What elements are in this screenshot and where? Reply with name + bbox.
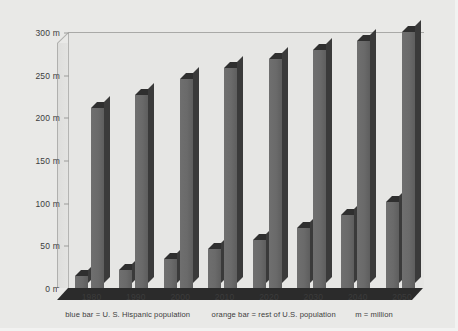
y-tick-mark-100 (64, 203, 69, 204)
y-tick-mark-50 (64, 246, 69, 247)
bar-side-face (237, 56, 243, 283)
x-tick-label-2040: 2040 (348, 292, 368, 302)
chart-screenshot: 0 m50 m100 m150 m200 m250 m300 m 1980199… (0, 0, 458, 331)
x-tick-label-2000: 2000 (170, 292, 190, 302)
bar-rest-2030 (313, 50, 326, 289)
bar-hispanic-2000 (164, 259, 177, 289)
bar-hispanic-2020 (253, 240, 266, 289)
plot-area: 0 m50 m100 m150 m200 m250 m300 m (68, 32, 424, 289)
y-tick-mark-150 (64, 161, 69, 162)
bar-hispanic-2010 (208, 249, 221, 289)
x-tick-label-2020: 2020 (259, 292, 279, 302)
bar-side-face (415, 20, 421, 283)
bar-side-face (326, 38, 332, 283)
bar-side-face (104, 96, 110, 283)
legend-unit: m = million (355, 310, 393, 319)
bar-rest-2050 (402, 32, 415, 289)
bar-side-face (148, 83, 154, 283)
y-tick-mark-300 (64, 33, 69, 34)
chart-floor (57, 288, 423, 300)
x-tick-label-2030: 2030 (304, 292, 324, 302)
bar-rest-2040 (357, 41, 370, 289)
x-tick-label-1990: 1990 (126, 292, 146, 302)
bar-hispanic-1990 (119, 270, 132, 289)
bar-rest-2000 (180, 79, 193, 289)
bar-hispanic-2050 (386, 202, 399, 289)
legend-hispanic: blue bar = U. S. Hispanic population (65, 310, 190, 319)
bar-rest-2010 (224, 68, 237, 289)
bar-side-face (282, 47, 288, 283)
bar-rest-2020 (269, 59, 282, 289)
legend-rest: orange bar = rest of U.S. population (212, 310, 336, 319)
bar-rest-1980 (91, 108, 104, 289)
bar-side-face (370, 29, 376, 283)
bar-hispanic-2030 (297, 228, 310, 289)
bar-side-face (193, 67, 199, 283)
x-tick-label-2050: 2050 (392, 292, 412, 302)
bar-rest-1990 (135, 95, 148, 289)
bar-hispanic-2040 (341, 215, 354, 289)
chart-legend: blue bar = U. S. Hispanic population ora… (0, 310, 458, 319)
y-tick-mark-250 (64, 75, 69, 76)
x-tick-label-2010: 2010 (215, 292, 235, 302)
x-tick-label-1980: 1980 (82, 292, 102, 302)
y-tick-mark-200 (64, 118, 69, 119)
